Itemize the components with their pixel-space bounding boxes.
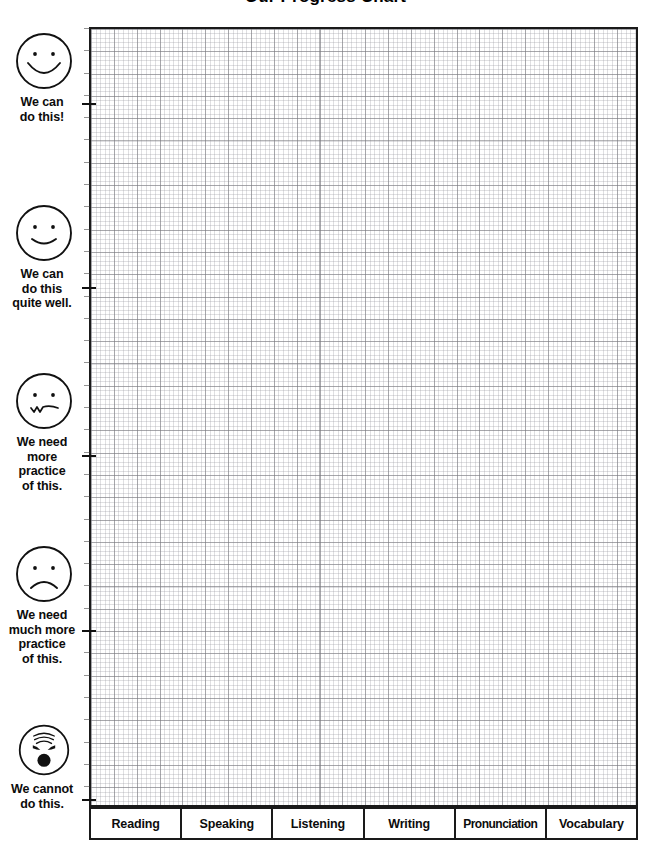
category-cell-listening[interactable]: Listening <box>273 809 364 838</box>
smiley-face-distressed-icon <box>16 722 72 778</box>
category-label-writing: Writing <box>388 817 430 831</box>
y-axis-level-1-label: We cannot do this. <box>0 782 88 811</box>
category-label-listening: Listening <box>291 817 345 831</box>
y-axis-level-4: We can do this quite well. <box>0 203 88 311</box>
y-axis-level-3-label: We need more practice of this. <box>0 435 88 493</box>
y-axis-level-2-label: We need much more practice of this. <box>0 608 88 666</box>
category-label-reading: Reading <box>111 817 159 831</box>
page-title: Our Progress Chart <box>0 0 651 7</box>
smiley-face-unsure-icon <box>14 371 74 431</box>
x-axis-category-row: Reading Speaking Listening Writing Pronu… <box>89 807 638 840</box>
category-cell-writing[interactable]: Writing <box>365 809 456 838</box>
y-axis-level-2: We need much more practice of this. <box>0 544 88 666</box>
y-axis-level-4-label: We can do this quite well. <box>0 267 88 311</box>
smiley-face-content-icon <box>14 203 74 263</box>
category-cell-reading[interactable]: Reading <box>91 809 182 838</box>
y-axis-level-5: We can do this! <box>0 31 88 124</box>
chart-plot-area[interactable] <box>89 27 638 807</box>
smiley-face-sad-icon <box>14 544 74 604</box>
category-cell-vocabulary[interactable]: Vocabulary <box>547 809 636 838</box>
progress-chart-page: Our Progress Chart We can do this! We ca… <box>0 0 651 849</box>
category-cell-pronunciation[interactable]: Pronunciation <box>456 809 547 838</box>
y-axis-level-5-label: We can do this! <box>0 95 88 124</box>
smiley-face-happy-icon <box>14 31 74 91</box>
category-cell-speaking[interactable]: Speaking <box>182 809 273 838</box>
category-label-pronunciation: Pronunciation <box>463 817 537 831</box>
y-axis-level-3: We need more practice of this. <box>0 371 88 493</box>
y-axis-level-1: We cannot do this. <box>0 722 88 811</box>
category-label-speaking: Speaking <box>200 817 254 831</box>
category-label-vocabulary: Vocabulary <box>559 817 624 831</box>
